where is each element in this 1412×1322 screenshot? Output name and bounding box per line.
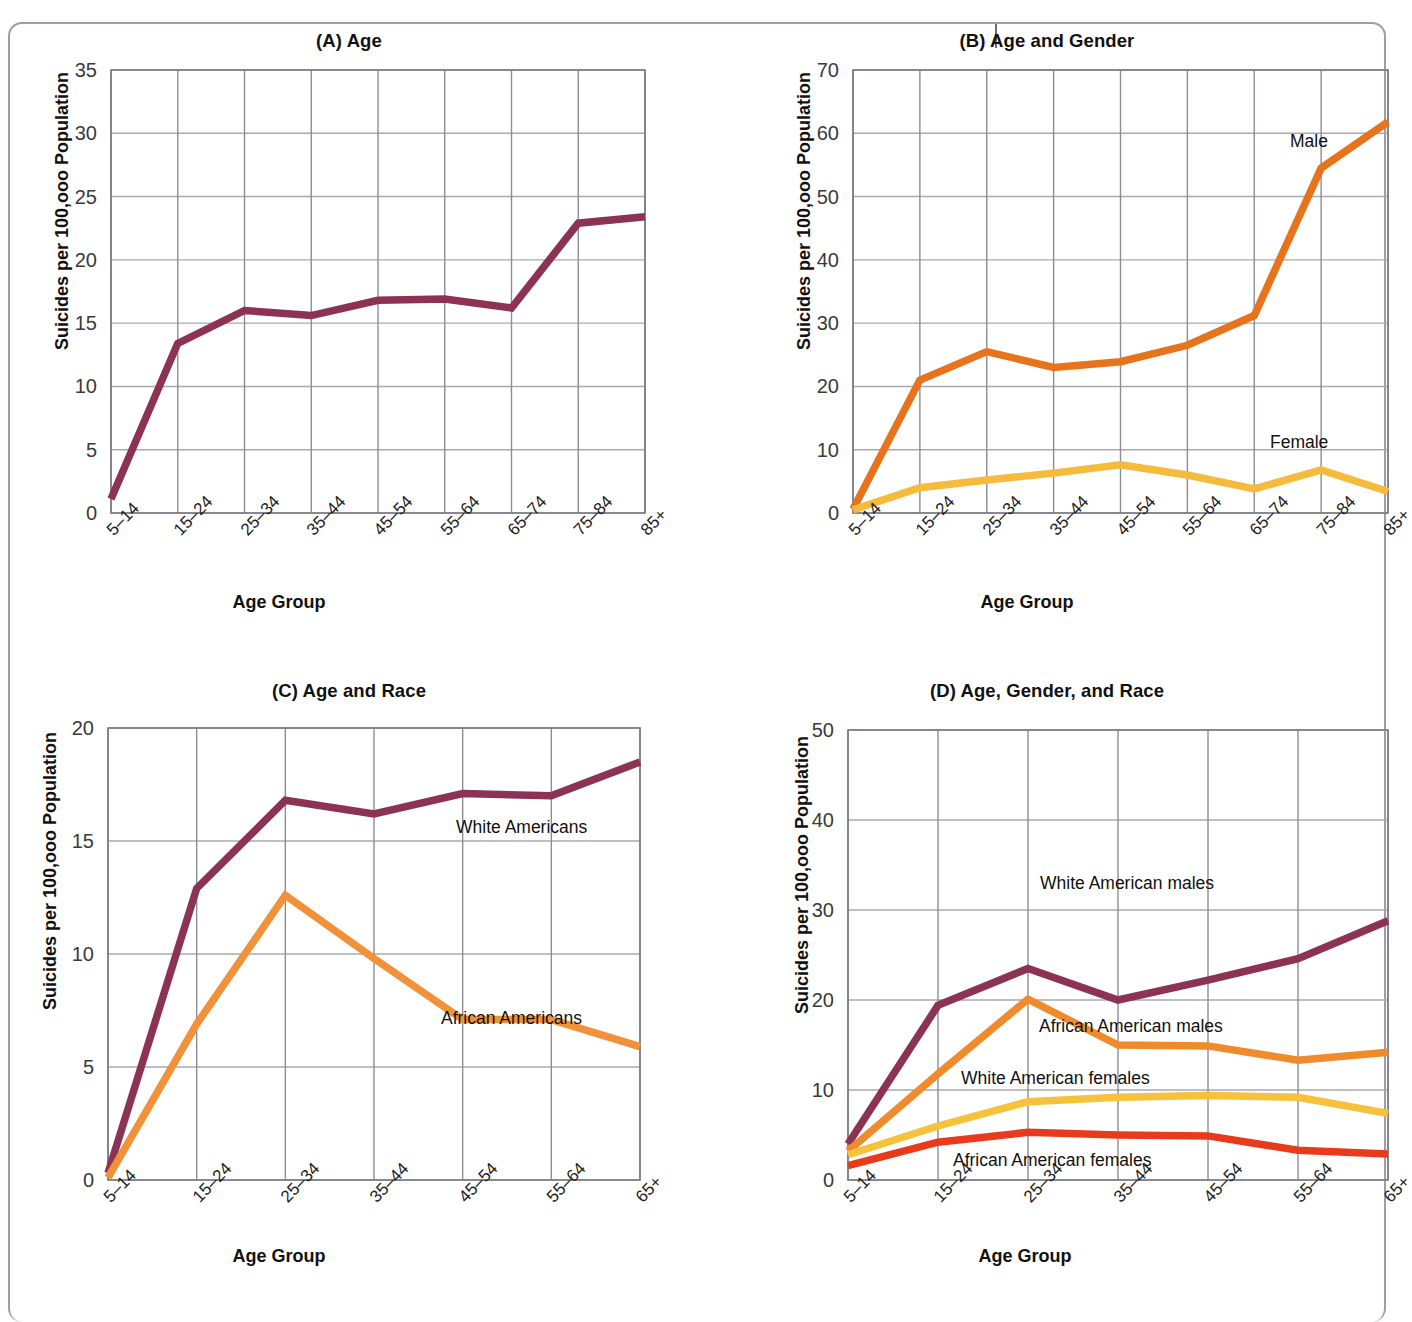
panel-b-age-gender: (B) Age and Gender Suicides per 100,ooo …: [698, 30, 1396, 650]
panel-c-series-label-white: White Americans: [456, 817, 587, 838]
y-axis-tick-label: 50: [772, 719, 834, 742]
y-axis-tick-label: 0: [772, 1169, 834, 1192]
y-axis-tick-label: 40: [772, 809, 834, 832]
y-axis-tick-label: 10: [772, 1079, 834, 1102]
panel-b-series-label-female: Female: [1270, 432, 1328, 453]
y-axis-tick-label: 5: [35, 438, 97, 461]
y-axis-tick-label: 20: [772, 989, 834, 1012]
y-axis-tick-label: 70: [777, 59, 839, 82]
y-axis-tick-label: 0: [777, 502, 839, 525]
panel-d-series-label-african-females: African American females: [953, 1150, 1151, 1171]
panel-d-series-label-african-males: African American males: [1039, 1016, 1223, 1037]
y-axis-tick-label: 10: [32, 943, 94, 966]
y-axis-tick-label: 60: [777, 122, 839, 145]
y-axis-tick-label: 30: [777, 312, 839, 335]
y-axis-tick-label: 20: [35, 248, 97, 271]
y-axis-tick-label: 35: [35, 59, 97, 82]
panel-c-series-label-african: African Americans: [441, 1008, 582, 1029]
panel-d-series-label-white-males: White American males: [1040, 873, 1214, 894]
y-axis-tick-label: 15: [32, 830, 94, 853]
y-axis-tick-label: 50: [777, 185, 839, 208]
panel-a-plot: [0, 30, 698, 650]
y-axis-tick-label: 40: [777, 248, 839, 271]
panel-a-age: (A) Age Suicides per 100,ooo Population …: [0, 30, 698, 650]
y-axis-tick-label: 10: [777, 438, 839, 461]
y-axis-tick-label: 20: [777, 375, 839, 398]
y-axis-tick-label: 0: [35, 502, 97, 525]
y-axis-tick-label: 20: [32, 717, 94, 740]
y-axis-tick-label: 10: [35, 375, 97, 398]
y-axis-tick-label: 30: [35, 122, 97, 145]
panel-d-age-gender-race: (D) Age, Gender, and Race Suicides per 1…: [698, 680, 1396, 1300]
panel-c-age-race: (C) Age and Race Suicides per 100,ooo Po…: [0, 680, 698, 1300]
y-axis-tick-label: 30: [772, 899, 834, 922]
y-axis-tick-label: 0: [32, 1169, 94, 1192]
y-axis-tick-label: 5: [32, 1056, 94, 1079]
panel-d-series-label-white-females: White American females: [961, 1068, 1150, 1089]
panel-b-series-label-male: Male: [1290, 131, 1328, 152]
y-axis-tick-label: 25: [35, 185, 97, 208]
panel-c-plot: [0, 680, 698, 1300]
y-axis-tick-label: 15: [35, 312, 97, 335]
